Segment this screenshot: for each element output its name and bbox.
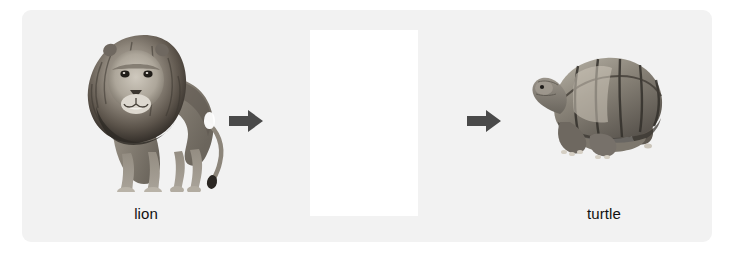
turtle-image	[520, 22, 688, 192]
item-turtle: turtle	[520, 22, 688, 221]
lion-image	[62, 22, 230, 192]
image-artifact-blob	[204, 112, 215, 129]
turtle-label: turtle	[587, 206, 621, 221]
figure-canvas: lion	[0, 0, 734, 256]
blank-image-placeholder	[310, 30, 418, 216]
arrow-right-icon	[467, 109, 501, 133]
arrow-right-icon	[229, 109, 263, 133]
lion-label: lion	[134, 206, 158, 221]
